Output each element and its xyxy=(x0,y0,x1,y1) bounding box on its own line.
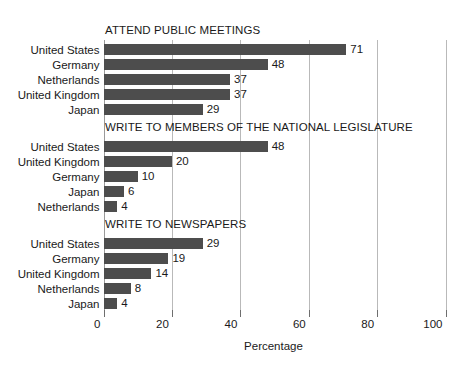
bar-row-inner: United States48 xyxy=(104,140,467,155)
bar-row: United States71 xyxy=(0,43,467,58)
bar xyxy=(104,201,118,212)
bar-value-label: 10 xyxy=(142,169,155,183)
bar xyxy=(104,104,203,115)
bar-row-inner: Germany10 xyxy=(104,170,467,185)
bar-row-inner: United Kingdom20 xyxy=(104,155,467,170)
bar xyxy=(104,268,152,279)
x-tick-20 xyxy=(172,310,173,317)
bar-row-inner: United Kingdom37 xyxy=(104,88,467,103)
category-label: Japan xyxy=(0,185,104,199)
category-label: Germany xyxy=(0,170,104,184)
bar-row: United Kingdom20 xyxy=(0,155,467,170)
bar xyxy=(104,238,203,249)
bar xyxy=(104,171,138,182)
bar-value-label: 6 xyxy=(128,184,134,198)
bar xyxy=(104,186,125,197)
bar-value-label: 37 xyxy=(234,87,247,101)
category-label: United Kingdom xyxy=(0,88,104,102)
bar xyxy=(104,89,231,100)
panel-rows: United States29Germany19United Kingdom14… xyxy=(0,237,467,312)
bar-value-label: 4 xyxy=(121,296,127,310)
bar-row-inner: Netherlands37 xyxy=(104,73,467,88)
bar-row: Netherlands37 xyxy=(0,73,467,88)
bar-row-inner: Japan6 xyxy=(104,185,467,200)
bar-row: United Kingdom14 xyxy=(0,267,467,282)
bar xyxy=(104,44,347,55)
bar-row: Japan6 xyxy=(0,185,467,200)
bar-value-label: 71 xyxy=(350,42,363,56)
bar-value-label: 29 xyxy=(207,236,220,250)
panel-title: ATTEND PUBLIC MEETINGS xyxy=(105,24,260,36)
bar-row-inner: United States71 xyxy=(104,43,467,58)
category-label: Japan xyxy=(0,103,104,117)
bar-value-label: 29 xyxy=(207,102,220,116)
category-label: United States xyxy=(0,237,104,251)
panel-rows: United States48United Kingdom20Germany10… xyxy=(0,140,467,215)
x-tick-0 xyxy=(104,310,105,317)
bar-row: Germany48 xyxy=(0,58,467,73)
category-label: Netherlands xyxy=(0,282,104,296)
x-tick-100 xyxy=(446,310,447,317)
category-label: Netherlands xyxy=(0,73,104,87)
x-tick-label-40: 40 xyxy=(225,318,241,331)
bar xyxy=(104,74,231,85)
bar xyxy=(104,59,268,70)
x-tick-label-80: 80 xyxy=(361,318,377,331)
bar-row: Germany10 xyxy=(0,170,467,185)
bar-row-inner: Netherlands4 xyxy=(104,200,467,215)
panel-title: WRITE TO NEWSPAPERS xyxy=(105,218,246,230)
category-label: United Kingdom xyxy=(0,267,104,281)
x-tick-label-20: 20 xyxy=(156,318,172,331)
bar-value-label: 14 xyxy=(155,266,168,280)
bar xyxy=(104,156,172,167)
x-axis: 020406080100 xyxy=(104,310,446,340)
bar xyxy=(104,141,268,152)
category-label: Netherlands xyxy=(0,200,104,214)
category-label: United States xyxy=(0,43,104,57)
category-label: Germany xyxy=(0,252,104,266)
bar-row: United States48 xyxy=(0,140,467,155)
bar-row: Netherlands4 xyxy=(0,200,467,215)
x-tick-40 xyxy=(240,310,241,317)
bar-value-label: 37 xyxy=(234,72,247,86)
bar xyxy=(104,283,131,294)
bar-chart-figure: ATTEND PUBLIC MEETINGSUnited States71Ger… xyxy=(0,0,467,375)
bar-row-inner: Japan29 xyxy=(104,103,467,118)
category-label: United States xyxy=(0,140,104,154)
bar-row-inner: United States29 xyxy=(104,237,467,252)
bar-value-label: 20 xyxy=(176,154,189,168)
bar-value-label: 48 xyxy=(272,57,285,71)
bar-row: Japan29 xyxy=(0,103,467,118)
bar-value-label: 48 xyxy=(272,139,285,153)
bar-row-inner: Germany48 xyxy=(104,58,467,73)
bar-row: United Kingdom37 xyxy=(0,88,467,103)
bar-row: Germany19 xyxy=(0,252,467,267)
x-tick-label-100: 100 xyxy=(423,318,445,331)
bar-value-label: 8 xyxy=(135,281,141,295)
x-tick-60 xyxy=(309,310,310,317)
bar-value-label: 4 xyxy=(121,199,127,213)
bar xyxy=(104,298,118,309)
category-label: Japan xyxy=(0,297,104,311)
bar-row-inner: Germany19 xyxy=(104,252,467,267)
bar-row-inner: Netherlands8 xyxy=(104,282,467,297)
x-tick-80 xyxy=(377,310,378,317)
x-tick-label-0: 0 xyxy=(94,318,103,331)
bar-row-inner: United Kingdom14 xyxy=(104,267,467,282)
bar-row: United States29 xyxy=(0,237,467,252)
x-axis-title-label: Percentage xyxy=(244,340,303,352)
category-label: United Kingdom xyxy=(0,155,104,169)
bar-row: Netherlands8 xyxy=(0,282,467,297)
bar xyxy=(104,253,169,264)
category-label: Germany xyxy=(0,58,104,72)
panel-title: WRITE TO MEMBERS OF THE NATIONAL LEGISLA… xyxy=(105,121,413,133)
x-tick-label-60: 60 xyxy=(293,318,309,331)
panel-rows: United States71Germany48Netherlands37Uni… xyxy=(0,43,467,118)
x-axis-title: Percentage xyxy=(0,340,467,352)
bar-value-label: 19 xyxy=(172,251,185,265)
